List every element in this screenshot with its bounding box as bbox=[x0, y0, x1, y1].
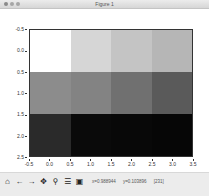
cursor-y: y=0.103896 bbox=[123, 179, 147, 184]
heatmap-cell bbox=[30, 72, 71, 114]
save-icon[interactable]: ▣ bbox=[75, 177, 84, 186]
home-icon[interactable]: ⌂ bbox=[3, 177, 12, 186]
navigation-toolbar: ⌂←→✥⚲☰▣ x=0.988944 y=0.103896 [231] bbox=[0, 172, 209, 196]
window-title: Figure 1 bbox=[0, 0, 209, 8]
heatmap-cell bbox=[30, 30, 71, 72]
x-tick-label: 1.0 bbox=[83, 159, 99, 167]
cursor-x: x=0.988944 bbox=[92, 179, 116, 184]
x-tick-label: 0.5 bbox=[62, 159, 78, 167]
zoom-icon[interactable]: ⚲ bbox=[51, 177, 60, 186]
x-tick-label: 0.0 bbox=[42, 159, 58, 167]
x-tick-label: 3.5 bbox=[185, 159, 201, 167]
y-tick-label: 0.0 bbox=[0, 47, 27, 53]
title-bar: Figure 1 bbox=[0, 0, 209, 9]
y-tick-label: 0.5 bbox=[0, 69, 27, 75]
pan-icon[interactable]: ✥ bbox=[39, 177, 48, 186]
heatmap-cell bbox=[71, 114, 112, 156]
heatmap-cell bbox=[152, 30, 193, 72]
heatmap-cell bbox=[111, 30, 152, 72]
configure-subplots-icon[interactable]: ☰ bbox=[63, 177, 72, 186]
x-tick-label: 2.0 bbox=[124, 159, 140, 167]
heatmap-cell bbox=[71, 72, 112, 114]
forward-icon[interactable]: → bbox=[27, 177, 36, 186]
heatmap-cell bbox=[71, 30, 112, 72]
heatmap-cell bbox=[152, 114, 193, 156]
heatmap-cell bbox=[111, 72, 152, 114]
y-tick-label: -0.5 bbox=[0, 26, 27, 32]
heatmap-cell bbox=[152, 72, 193, 114]
heatmap-cell bbox=[111, 114, 152, 156]
heatmap-cell bbox=[30, 114, 71, 156]
y-tick-label: 1.5 bbox=[0, 111, 27, 117]
cursor-coordinates: x=0.988944 y=0.103896 [231] bbox=[92, 179, 170, 184]
y-tick-label: 1.0 bbox=[0, 90, 27, 96]
x-tick-label: 2.5 bbox=[144, 159, 160, 167]
x-tick-label: 1.5 bbox=[103, 159, 119, 167]
figure-canvas[interactable]: -0.50.00.51.01.52.02.5 -0.50.00.51.01.52… bbox=[0, 9, 209, 171]
y-tick-label: 2.0 bbox=[0, 133, 27, 139]
x-tick-label: 3.0 bbox=[165, 159, 181, 167]
cursor-value: [231] bbox=[154, 179, 164, 184]
toolbar-buttons: ⌂←→✥⚲☰▣ bbox=[3, 177, 84, 186]
x-tick-label: -0.5 bbox=[21, 159, 37, 167]
back-icon[interactable]: ← bbox=[15, 177, 24, 186]
heatmap-axes[interactable] bbox=[29, 29, 193, 157]
